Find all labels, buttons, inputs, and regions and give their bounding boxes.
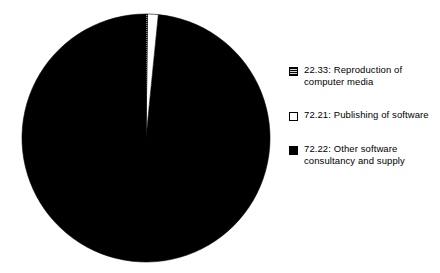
legend-item-label: 72.22: Other software consultancy and su… <box>304 143 405 166</box>
pie-svg <box>0 0 285 273</box>
legend-item-22-33[interactable]: 22.33: Reproduction of computer media <box>289 64 440 87</box>
legend-item-label: 72.21: Publishing of software <box>304 109 429 121</box>
legend-item-72-21[interactable]: 72.21: Publishing of software <box>289 109 440 121</box>
chart-legend: 22.33: Reproduction of computer media 72… <box>289 64 440 166</box>
hatch-swatch-icon <box>289 67 298 76</box>
pie-chart-figure: 22.33: Reproduction of computer media 72… <box>0 0 440 273</box>
solid-swatch-icon <box>289 146 298 155</box>
open-swatch-icon <box>289 112 298 121</box>
legend-item-72-22[interactable]: 72.22: Other software consultancy and su… <box>289 143 440 166</box>
legend-item-label: 22.33: Reproduction of computer media <box>304 64 402 87</box>
pie-plot-area <box>0 0 285 273</box>
